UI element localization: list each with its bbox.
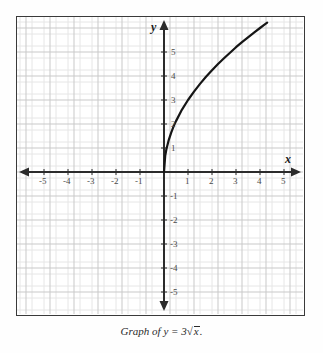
caption-equals: = — [171, 325, 178, 337]
y-tick-label-neg5: -5 — [170, 288, 178, 297]
plot-frame: -5 -4 -3 -2 -1 1 2 3 4 5 5 4 3 2 1 -1 -2… — [16, 16, 305, 316]
y-tick-label-neg4: -4 — [170, 264, 178, 273]
x-tick-label-neg4: -4 — [63, 177, 71, 186]
x-tick-label-2: 2 — [209, 177, 214, 186]
y-tick-label-2: 2 — [171, 120, 176, 129]
vinculum — [194, 326, 200, 327]
x-tick-label-1: 1 — [185, 177, 190, 186]
x-axis-label: x — [285, 153, 291, 165]
sqrt-curve-path — [164, 23, 267, 172]
y-tick-label-neg3: -3 — [170, 240, 178, 249]
function-curve — [17, 17, 303, 314]
x-tick-label-neg1: -1 — [135, 177, 143, 186]
caption-lhs: y — [163, 325, 168, 337]
figure-caption: Graph of y = 3√x. — [0, 325, 323, 338]
caption-prefix: Graph of — [121, 325, 161, 337]
y-axis-label: y — [151, 21, 156, 33]
radical-symbol: √ — [187, 325, 193, 337]
y-tick-label-neg2: -2 — [170, 216, 178, 225]
y-tick-label-4: 4 — [171, 72, 176, 81]
x-tick-label-neg5: -5 — [39, 177, 47, 186]
radical-group: √x — [187, 325, 200, 338]
y-tick-label-3: 3 — [171, 96, 176, 105]
y-tick-label-1: 1 — [171, 144, 176, 153]
figure-container: -5 -4 -3 -2 -1 1 2 3 4 5 5 4 3 2 1 -1 -2… — [0, 0, 323, 353]
x-tick-label-5: 5 — [281, 177, 286, 186]
y-tick-label-5: 5 — [171, 48, 176, 57]
caption-period: . — [200, 325, 203, 337]
x-tick-label-4: 4 — [257, 177, 262, 186]
y-tick-label-neg1: -1 — [170, 192, 178, 201]
x-tick-label-neg3: -3 — [87, 177, 95, 186]
x-tick-label-3: 3 — [233, 177, 238, 186]
x-tick-label-neg2: -2 — [111, 177, 119, 186]
